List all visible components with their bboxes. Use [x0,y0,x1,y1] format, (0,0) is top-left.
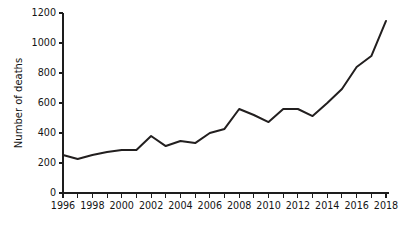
x-tick-label: 1998 [80,200,104,211]
x-tick-label: 2010 [256,200,280,211]
y-tick-label: 200 [38,157,56,168]
x-tick-label: 2018 [374,200,398,211]
chart-series [63,21,386,159]
x-tick-label: 2000 [110,200,134,211]
y-axis-title: Number of deaths [13,58,24,148]
y-tick-label: 400 [38,127,56,138]
y-tick-label: 1200 [32,7,56,18]
chart-axes [63,13,389,193]
x-tick-label: 2004 [168,200,192,211]
x-tick-label: 1996 [51,200,75,211]
x-tick-label: 2014 [315,200,339,211]
line-chart: 020040060080010001200 199619982000200220… [0,0,414,228]
chart-container: 020040060080010001200 199619982000200220… [0,0,414,228]
x-tick-label: 2012 [286,200,310,211]
y-tick-label: 800 [38,67,56,78]
x-tick-label: 2006 [198,200,222,211]
x-axis-tick-labels: 1996199820002002200420062008201020122014… [51,200,398,211]
y-tick-label: 0 [50,187,56,198]
y-tick-label: 600 [38,97,56,108]
x-tick-label: 2008 [227,200,251,211]
y-axis-tick-labels: 020040060080010001200 [32,7,56,198]
series-line-number-of-deaths [63,21,386,159]
x-tick-label: 2016 [344,200,368,211]
y-tick-label: 1000 [32,37,56,48]
x-tick-label: 2002 [139,200,163,211]
